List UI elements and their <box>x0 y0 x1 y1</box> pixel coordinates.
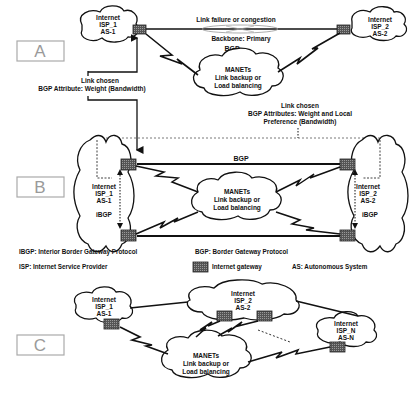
isp2-b-text-3: AS-2 <box>361 197 376 204</box>
wireless-link-icon <box>136 166 198 192</box>
manet-a-text-3: Load balancing <box>214 82 262 90</box>
wireless-link-icon <box>146 34 198 75</box>
isp2-cloud-b <box>348 135 408 251</box>
panel-b-label: B <box>34 178 45 197</box>
isp2-a-text-1: Internet <box>368 16 393 23</box>
isp1-c-text-1: Internet <box>92 296 117 303</box>
manet-c-text-1: MANETs <box>193 352 220 359</box>
isp1-a-text-1: Internet <box>96 14 121 21</box>
chosen-right-text-1: Link chosen <box>281 102 319 109</box>
gateway-icon <box>133 25 146 34</box>
chosen-arrow-up <box>88 38 137 72</box>
manet-b-text-2: Link backup or <box>214 196 261 204</box>
wireless-link-icon <box>248 347 330 362</box>
wired-link <box>130 302 188 308</box>
legend-bgp: BGP: Border Gateway Protocol <box>195 248 288 256</box>
ispn-c-text-3: AS-N <box>338 334 354 341</box>
wireless-link-icon <box>218 321 258 336</box>
gateway-icon <box>337 25 350 34</box>
wireless-link-icon <box>120 327 168 354</box>
isp2-b-text-2: ISP_2 <box>359 190 377 197</box>
legend-as: AS: Autonomous System <box>292 263 368 271</box>
gateway-icon <box>330 342 345 352</box>
panel-a-label: A <box>34 42 46 61</box>
legend: IBGP: Interior Border Gateway Protocol B… <box>19 248 368 272</box>
panel-b: B Internet ISP_1 AS-1 iBGP Internet ISP_… <box>17 135 408 251</box>
gateway-icon <box>340 230 355 241</box>
isp1-a-text-2: ISP_1 <box>99 21 117 28</box>
panel-c-label: C <box>34 336 46 355</box>
chosen-left-text-1: Link chosen <box>81 77 119 84</box>
ibgp-b-left: iBGP <box>96 211 113 218</box>
wireless-link-icon <box>278 33 340 72</box>
ispn-c-text-2: ISP_N <box>337 327 356 334</box>
manet-b-text-3: Load balancing <box>213 204 261 212</box>
manet-b-text-1: MANETs <box>224 188 251 195</box>
isp2-c-text-3: AS-2 <box>236 304 251 311</box>
isp2-c-text-1: Internet <box>231 290 256 297</box>
wired-link <box>296 301 358 316</box>
backbone-text: Backbone: Primary <box>211 35 271 43</box>
ispn-c-text-1: Internet <box>334 320 359 327</box>
gateway-icon <box>121 230 136 241</box>
link-failure-text: Link failure or congestion <box>196 16 275 24</box>
panel-c: C Internet ISP_1 AS-1 Internet ISP_2 AS-… <box>17 280 376 378</box>
gateway-icon <box>340 159 355 170</box>
gateway-icon <box>257 311 272 321</box>
legend-gateway-icon <box>193 262 208 272</box>
more-links-ellipsis <box>258 330 290 342</box>
isp2-c-text-2: ISP_2 <box>234 297 252 304</box>
bgp-text-b: BGP <box>233 155 249 162</box>
wireless-link-icon <box>276 167 340 192</box>
isp1-b-text-2: ISP_1 <box>95 190 113 197</box>
gateway-icon <box>217 311 232 321</box>
manet-a-text-1: MANETs <box>225 66 252 73</box>
legend-ibgp: IBGP: Interior Border Gateway Protocol <box>19 248 138 256</box>
isp1-c-text-2: ISP_1 <box>95 303 113 310</box>
chosen-right-text-2: BGP Attributes: Weight and Local <box>248 110 352 118</box>
chosen-left-text-2: BGP Attribute: Weight (Bandwidth) <box>38 85 145 93</box>
wireless-link-icon <box>136 212 198 234</box>
isp1-b-text-3: AS-1 <box>97 197 112 204</box>
manet-c-text-3: Load balancing <box>182 368 230 376</box>
network-diagram: A Internet ISP_1 AS-1 Internet ISP_2 AS-… <box>0 0 418 407</box>
isp2-a-text-2: ISP_2 <box>371 23 389 30</box>
manet-a-text-2: Link backup or <box>215 74 262 82</box>
chosen-right-text-3: Preference (Bandwidth) <box>264 118 337 126</box>
isp2-b-text-1: Internet <box>356 183 381 190</box>
gateway-icon <box>121 159 136 170</box>
gateway-icon <box>104 319 119 329</box>
legend-isp: ISP: Internet Service Provider <box>19 263 108 270</box>
isp1-c-text-3: AS-1 <box>97 310 112 317</box>
ibgp-b-right: iBGP <box>362 211 379 218</box>
wireless-link-icon <box>276 212 340 234</box>
panel-a: A Internet ISP_1 AS-1 Internet ISP_2 AS-… <box>17 6 406 150</box>
isp2-a-text-3: AS-2 <box>373 30 388 37</box>
isp1-a-text-3: AS-1 <box>101 28 116 35</box>
isp1-b-text-1: Internet <box>92 183 117 190</box>
manet-c-text-2: Link backup or <box>183 360 230 368</box>
legend-gateway: Internet gateway <box>212 263 262 271</box>
